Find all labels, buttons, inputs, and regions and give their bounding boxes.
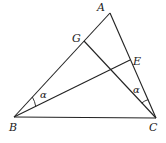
angle-label-c: α <box>133 84 140 95</box>
segment-bc <box>14 117 156 118</box>
angle-arc-b <box>32 97 35 106</box>
geometry-diagram: A G E B C α α <box>0 0 166 143</box>
angle-arc-c <box>142 100 149 103</box>
point-label-c: C <box>149 121 158 134</box>
point-label-g: G <box>72 32 81 45</box>
point-label-a: A <box>96 1 105 14</box>
segment-ab <box>14 13 110 117</box>
point-label-e: E <box>132 55 141 68</box>
segment-be <box>14 60 130 117</box>
angle-label-b: α <box>40 89 47 100</box>
segment-cg <box>84 41 156 118</box>
point-label-b: B <box>8 121 17 134</box>
